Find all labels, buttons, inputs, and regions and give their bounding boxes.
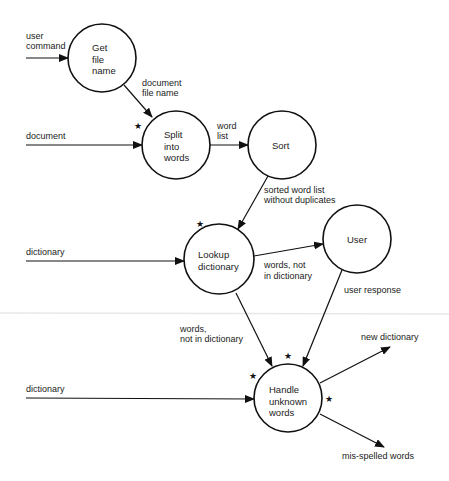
flow-label-document: document xyxy=(26,131,66,142)
node-label-sort: Sort xyxy=(272,140,289,152)
flow-label-sorted-2: without duplicates xyxy=(264,195,336,206)
flow-label-dictionary-2: dictionary xyxy=(26,384,65,395)
flow-label-user-response: user response xyxy=(344,285,401,296)
diagram-canvas xyxy=(0,0,449,481)
flow-label-words-not-in-dict-1: words, not xyxy=(264,260,306,271)
node-label-handle-unknown-words: Handle unknown words xyxy=(269,384,307,419)
flow-label-misspelled-words: mis-spelled words xyxy=(342,451,414,462)
flow-label-word-list-2: list xyxy=(217,131,228,142)
flow-label-words-not-in-dict-b2: not in dictionary xyxy=(180,334,243,345)
star-icon-split: ★ xyxy=(134,122,142,131)
flow-dictionary-to-handle xyxy=(26,398,254,399)
flow-misspelled-words xyxy=(320,414,384,447)
node-label-user: User xyxy=(347,234,367,246)
flow-words-not-in-dictionary-to-handle xyxy=(236,293,272,366)
scan-artifact-line xyxy=(0,313,449,314)
node-label-lookup-dictionary: Lookup dictionary xyxy=(198,249,239,272)
flow-label-document-file-name-2: file name xyxy=(142,88,179,99)
flow-label-new-dictionary: new dictionary xyxy=(361,332,419,343)
flow-words-not-in-dictionary-to-user xyxy=(254,244,323,256)
node-label-split-into-words: Split into words xyxy=(164,129,189,164)
flow-label-dictionary-1: dictionary xyxy=(26,247,65,258)
star-icon-lookup: ★ xyxy=(196,220,204,229)
star-icon-handle-top: ★ xyxy=(284,352,292,361)
node-label-get-file-name: Get file name xyxy=(92,42,116,77)
flow-new-dictionary xyxy=(320,347,390,383)
flow-label-words-not-in-dict-2: in dictionary xyxy=(264,271,312,282)
star-icon-handle-left: ★ xyxy=(249,372,257,381)
flow-label-user-command-2: command xyxy=(26,41,66,52)
star-icon-handle-right: ★ xyxy=(325,395,333,404)
flow-user-response xyxy=(303,270,342,366)
